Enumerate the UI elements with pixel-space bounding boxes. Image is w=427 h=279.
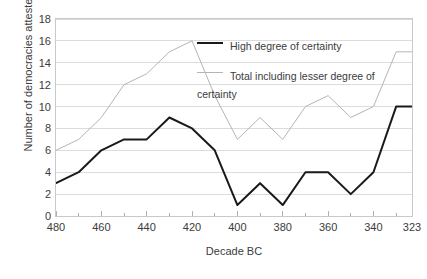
y-tick-label: 2	[25, 189, 51, 200]
x-tick-label: 420	[172, 221, 212, 234]
x-tick-label: 380	[263, 221, 303, 234]
x-tick-label: 323	[392, 221, 427, 234]
y-tick-label: 16	[25, 36, 51, 47]
legend-label-high-certainty: High degree of certainty	[230, 40, 341, 52]
x-tick-label: 360	[308, 221, 348, 234]
legend-label-total-lesser-certainty: Total including lesser degree of certain…	[197, 70, 375, 100]
y-tick-label: 4	[25, 167, 51, 178]
chart-legend: High degree of certainty Total including…	[197, 36, 387, 114]
y-tick-label: 12	[25, 80, 51, 91]
legend-swatch-high-certainty	[197, 42, 223, 44]
x-tick-label: 340	[353, 221, 393, 234]
x-tick-marks	[56, 211, 412, 216]
x-axis-title: Decade BC	[55, 245, 413, 258]
legend-entry-high-certainty: High degree of certainty	[197, 36, 387, 54]
y-axis-tick-labels: 024681012141618	[20, 18, 51, 217]
line-chart: Number of democracies attested 024681012…	[0, 0, 427, 279]
x-axis-tick-labels: 480460440420400380360340323	[55, 221, 413, 237]
x-tick-label: 400	[217, 221, 257, 234]
y-tick-label: 6	[25, 145, 51, 156]
y-tick-label: 14	[25, 58, 51, 69]
legend-swatch-total-lesser-certainty	[197, 72, 223, 73]
y-tick-label: 18	[25, 14, 51, 25]
y-tick-label: 8	[25, 123, 51, 134]
y-tick-label: 10	[25, 102, 51, 113]
legend-entry-total-lesser-certainty: Total including lesser degree of certain…	[197, 66, 387, 102]
series-line	[56, 107, 412, 206]
x-tick-label: 460	[81, 221, 121, 234]
x-tick-label: 440	[127, 221, 167, 234]
x-tick-label: 480	[36, 221, 76, 234]
